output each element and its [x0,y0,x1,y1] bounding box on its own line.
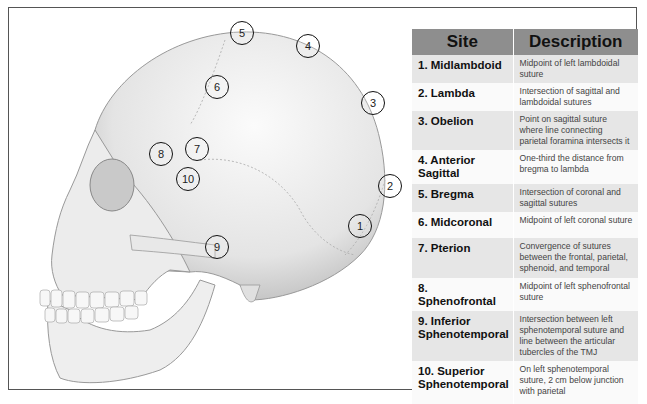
description-column-header: Description [513,29,638,55]
site-name: 6. Midcoronal [412,212,513,238]
site-description: Intersection of sagittal and lambdoidal … [513,83,638,111]
marker-10-superior-sphenotemporal: 10 [176,167,200,191]
site-description: Intersection between left sphenotemporal… [513,311,638,361]
site-name: 2. Lambda [412,83,513,111]
site-name: 8. Sphenofrontal [412,278,513,311]
marker-9-inferior-sphenotemporal: 9 [205,235,229,259]
skull-illustration [0,0,410,392]
marker-8-sphenofrontal: 8 [149,142,173,166]
site-description: On left sphenotemporal suture, 2 cm belo… [513,361,638,404]
table-header-row: Site Description [412,29,638,55]
marker-1-midlambdoid: 1 [348,214,372,238]
site-description: One-third the distance from bregma to la… [513,150,638,184]
table-row: 8. Sphenofrontal Midpoint of left spheno… [412,278,638,311]
marker-6-midcoronal: 6 [205,75,229,99]
site-name: 7. Pterion [412,238,513,278]
marker-3-obelion: 3 [361,91,385,115]
site-name: 1. Midlambdoid [412,55,513,83]
marker-2-lambda: 2 [378,174,402,198]
site-description: Intersection of coronal and sagittal sut… [513,184,638,212]
table-row: 4. Anterior Sagittal One-third the dista… [412,150,638,184]
site-name: 9. Inferior Sphenotemporal [412,311,513,361]
site-description: Midpoint of left coronal suture [513,212,638,238]
table-row: 1. Midlambdoid Midpoint of left lambdoid… [412,55,638,83]
marker-7-pterion: 7 [185,137,209,161]
site-column-header: Site [412,29,513,55]
table-row: 9. Inferior Sphenotemporal Intersection … [412,311,638,361]
site-name: 3. Obelion [412,111,513,150]
site-name: 5. Bregma [412,184,513,212]
site-name: 10. Superior Sphenotemporal [412,361,513,404]
site-name: 4. Anterior Sagittal [412,150,513,184]
marker-4-anterior-sagittal: 4 [296,34,320,58]
table-row: 5. Bregma Intersection of coronal and sa… [412,184,638,212]
marker-5-bregma: 5 [230,21,254,45]
site-description: Midpoint of left lambdoidal suture [513,55,638,83]
sites-table: Site Description 1. Midlambdoid Midpoint… [412,29,639,404]
table-row: 2. Lambda Intersection of sagittal and l… [412,83,638,111]
table-row: 10. Superior Sphenotemporal On left sphe… [412,361,638,404]
table-row: 6. Midcoronal Midpoint of left coronal s… [412,212,638,238]
table-row: 7. Pterion Convergence of sutures betwee… [412,238,638,278]
site-description: Convergence of sutures between the front… [513,238,638,278]
site-description: Midpoint of left sphenofrontal suture [513,278,638,311]
table-row: 3. Obelion Point on sagittal suture wher… [412,111,638,150]
site-description: Point on sagittal suture where line conn… [513,111,638,150]
